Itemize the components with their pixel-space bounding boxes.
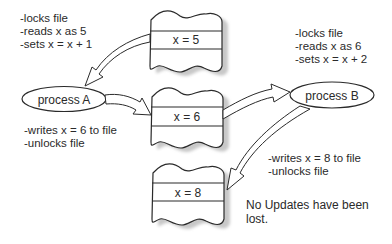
file-state-box-1: x = 5 bbox=[150, 11, 228, 76]
note-process-a-read: -locks file -reads x as 5 -sets x = x + … bbox=[20, 12, 92, 51]
file-state-box-2: x = 6 bbox=[151, 88, 229, 152]
note-line: lost. bbox=[246, 212, 369, 226]
file-state-label-3: x = 8 bbox=[175, 186, 202, 200]
file-state-label-2: x = 6 bbox=[174, 110, 201, 124]
note-line: -writes x = 8 to file bbox=[268, 152, 361, 165]
process-a-label: process A bbox=[38, 93, 91, 107]
process-b-label: process B bbox=[305, 89, 358, 103]
arrow-read-to-process-a-icon bbox=[85, 34, 150, 86]
arrow-write-from-process-a-icon bbox=[105, 94, 151, 115]
note-process-b-read: -locks file -reads x as 6 -sets x = x + … bbox=[295, 27, 367, 66]
note-line: No Updates have been bbox=[246, 198, 369, 212]
note-line: -locks file bbox=[295, 27, 367, 40]
note-conclusion: No Updates have been lost. bbox=[246, 198, 369, 226]
note-line: -unlocks file bbox=[24, 137, 117, 150]
note-line: -sets x = x + 1 bbox=[20, 38, 92, 51]
note-line: -unlocks file bbox=[268, 165, 361, 178]
note-line: -writes x = 6 to file bbox=[24, 124, 117, 137]
arrow-read-to-process-b-icon bbox=[223, 84, 290, 119]
file-state-label-1: x = 5 bbox=[173, 33, 200, 47]
note-line: -reads x as 5 bbox=[20, 25, 92, 38]
note-line: -locks file bbox=[20, 12, 92, 25]
process-a-node: process A bbox=[22, 87, 106, 112]
note-process-b-write: -writes x = 8 to file -unlocks file bbox=[268, 152, 361, 178]
file-state-box-3: x = 8 bbox=[152, 164, 230, 229]
note-process-a-write: -writes x = 6 to file -unlocks file bbox=[24, 124, 117, 150]
process-b-node: process B bbox=[290, 82, 374, 108]
note-line: -reads x as 6 bbox=[295, 40, 367, 53]
note-line: -sets x = x + 2 bbox=[295, 53, 367, 66]
